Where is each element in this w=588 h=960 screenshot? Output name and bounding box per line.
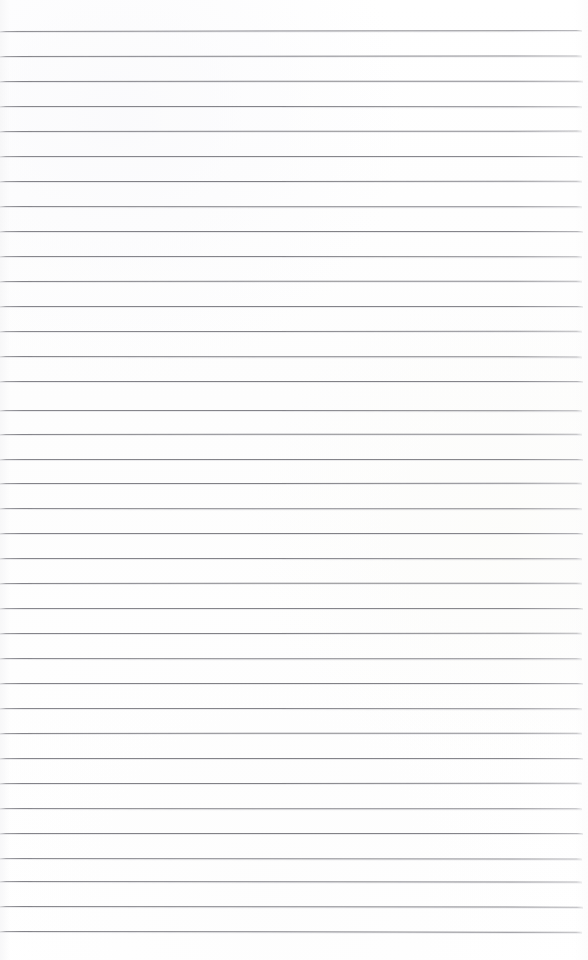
writing-area[interactable] [0,0,588,960]
notebook-page [0,0,588,960]
